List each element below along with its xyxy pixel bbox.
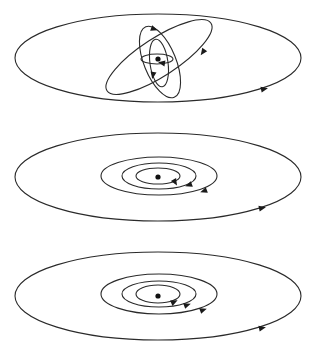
panel-coplanar-orbits: Panel 2: coplanar concentric orbits — [15, 133, 301, 221]
direction-arrow-icon — [258, 204, 266, 211]
panel-random-orbits: Panel 1: randomly inclined orbits — [15, 7, 301, 106]
central-body-dot — [155, 56, 160, 61]
central-body-dot — [155, 293, 160, 298]
orbit-diagram: Panel 1: randomly inclined orbitsPanel 2… — [0, 0, 320, 354]
direction-arrow-icon — [198, 48, 207, 57]
central-body-dot — [155, 174, 160, 179]
panel-co-rotating-orbits: Panel 3: co-rotating concentric orbits — [15, 252, 301, 340]
